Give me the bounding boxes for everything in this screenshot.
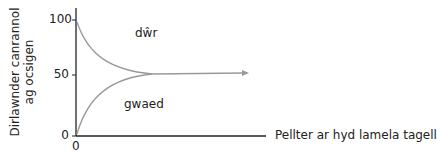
y-tick-label-0: 0 <box>49 128 69 142</box>
y-tick-label-100: 100 <box>49 12 69 26</box>
y-axis-label-line1: Dirlawnder canrannol <box>8 0 22 152</box>
water-label: dŵr <box>135 26 157 40</box>
y-axis-label-line2: ag ocsigen <box>22 0 36 152</box>
x-axis-label: Pellter ar hyd lamela tagell <box>275 128 437 142</box>
arrow-head-icon <box>242 70 249 76</box>
blood-label: gwaed <box>124 97 164 111</box>
y-axis-label: Dirlawnder canrannol ag ocsigen <box>8 0 36 152</box>
x-tick-label-0: 0 <box>72 139 80 153</box>
equilibrium-line <box>152 73 244 74</box>
y-tick-label-50: 50 <box>49 67 69 81</box>
